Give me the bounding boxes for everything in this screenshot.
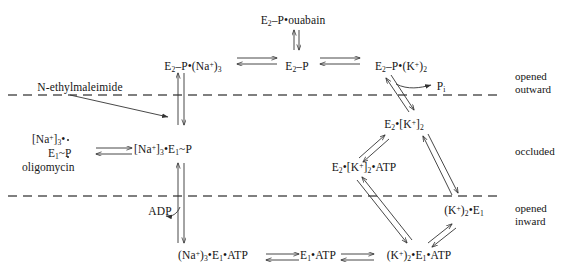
- species-na3-e1p: [Na+]3•E1~P: [134, 143, 192, 157]
- species-e2-k2-atp: E2•[K+]2•ATP: [332, 161, 397, 175]
- arrow-na3e1atp-e1atp: [266, 254, 299, 260]
- arrow-n-ethylmaleimide: [70, 95, 168, 117]
- arrow-pi-release: [396, 84, 431, 88]
- opened-inward-line2: inward: [515, 215, 547, 228]
- species-oligomycin-e1p-group: [Na+]3• E1~P oligomycin: [22, 133, 74, 174]
- reaction-cycle-diagram: E2–P•ouabain E2–P•(Na+)3 E2–P E2–P•(K+)2…: [0, 0, 587, 280]
- arrow-e1atp-k2e1atp: [341, 254, 374, 260]
- arrow-e2pk2-e2k2: [386, 75, 414, 112]
- species-e2-k2-occluded: E2•[K+]2: [384, 118, 424, 132]
- arrow-e1p-na3e1p: [96, 148, 132, 154]
- label-phosphate-pi: Pi: [437, 80, 446, 94]
- compartment-label-occluded: occluded: [515, 145, 555, 158]
- arrow-na3e1p-na3e1atp: [178, 163, 184, 243]
- oligo-na3-label: [Na+]3•: [32, 133, 74, 147]
- arrow-e2k2atp-k2e1atp: [357, 177, 412, 243]
- compartment-label-opened-inward: opened inward: [515, 202, 547, 228]
- diagram-vector-layer: [0, 0, 587, 280]
- arrow-e2p-ouabain: [294, 30, 299, 50]
- arrow-e2p-e2pk2: [320, 58, 360, 64]
- arrow-e2pna3-e2p: [237, 58, 277, 64]
- opened-outward-line1: opened: [515, 70, 551, 83]
- species-e1-atp: E1•ATP: [300, 249, 336, 263]
- arrow-e2k2-k2e1: [423, 134, 458, 195]
- species-e2p-k2: E2–P•(K+)2: [375, 60, 427, 74]
- species-e2p-na3: E2–P•(Na+)3: [164, 60, 221, 74]
- arrow-e2k2atp-e2k2: [359, 135, 389, 162]
- species-na3-e1-atp: (Na+)3•E1•ATP: [178, 249, 248, 263]
- label-adp: ADP: [148, 205, 171, 218]
- oligomycin-label: oligomycin: [22, 161, 74, 174]
- oligo-e1p-label: E1~P: [48, 147, 74, 161]
- opened-inward-line1: opened: [515, 202, 547, 215]
- arrow-e2pna3-na3e1p: [178, 73, 184, 125]
- species-k2-e1: (K+)2•E1: [444, 204, 484, 218]
- label-n-ethylmaleimide: N-ethylmaleimide: [37, 81, 122, 94]
- species-k2-e1-atp: (K+)2•E1•ATP: [387, 249, 452, 263]
- compartment-label-opened-outward: opened outward: [515, 70, 551, 96]
- species-e2p: E2–P: [285, 60, 308, 74]
- opened-outward-line2: outward: [515, 83, 551, 96]
- species-e2p-ouabain: E2–P•ouabain: [261, 14, 326, 28]
- membrane-lines: [8, 95, 500, 196]
- occluded-line1: occluded: [515, 145, 555, 158]
- arrow-k2e1-k2e1atp: [428, 224, 456, 247]
